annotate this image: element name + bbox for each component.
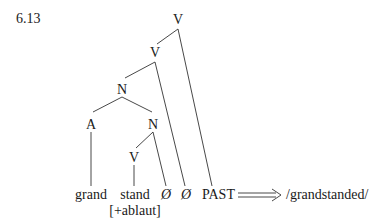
node-a: A [86,117,97,132]
node-n-top: N [117,82,127,97]
node-v-mid: V [150,45,160,60]
terminal-stand: stand [120,187,150,202]
edge-nlow-null1 [153,132,166,186]
edge-vmid-null2 [155,62,185,186]
edge-vtop-vmid [157,29,178,44]
terminal-null-2: Ø [180,187,192,202]
node-v-low: V [129,150,139,165]
edge-nlow-vlow [136,132,153,148]
terminal-stand-feature: [+ablaut] [109,203,160,218]
edge-vtop-past [178,29,212,186]
output-form: /grandstanded/ [286,187,369,202]
node-n-low: N [148,117,158,132]
terminal-grand: grand [75,187,107,202]
terminal-past: PAST [202,187,235,202]
double-arrow-icon [238,189,281,201]
example-number: 6.13 [16,11,41,26]
terminal-null-1: Ø [160,187,172,202]
edge-vmid-ntop [125,62,155,78]
edge-ntop-nlow [122,97,152,112]
morphology-tree: 6.13 V V N A N V grand stand [+ablaut] Ø… [0,0,386,224]
edge-ntop-a [93,97,122,112]
node-v-top: V [173,12,183,27]
